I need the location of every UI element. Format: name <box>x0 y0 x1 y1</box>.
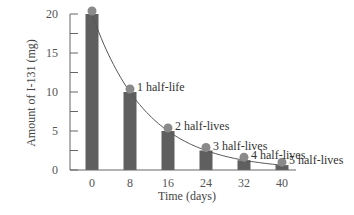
x-tick-label: 0 <box>89 176 95 190</box>
half-life-annotation: 5 half-lives <box>289 153 344 167</box>
x-tick-label: 16 <box>162 176 174 190</box>
half-life-annotation: 1 half-life <box>137 80 185 94</box>
data-point-marker <box>240 153 249 162</box>
bar <box>124 92 137 170</box>
y-tick-label: 20 <box>46 7 58 21</box>
y-tick-label: 10 <box>46 85 58 99</box>
data-point-marker <box>164 124 173 133</box>
bar <box>162 131 175 170</box>
y-tick-label: 0 <box>52 163 58 177</box>
bar <box>200 151 213 171</box>
y-tick-label: 5 <box>52 124 58 138</box>
bar <box>86 14 99 170</box>
x-tick-label: 40 <box>276 176 288 190</box>
half-life-chart: 051015200816243240 1 half-life2 half-liv… <box>0 0 354 215</box>
y-axis-title: Amount of I-131 (mg) <box>24 39 38 147</box>
data-point-marker <box>88 7 97 16</box>
x-tick-label: 24 <box>200 176 212 190</box>
x-tick-label: 32 <box>238 176 250 190</box>
half-life-annotation: 2 half-lives <box>175 119 230 133</box>
x-tick-label: 8 <box>127 176 133 190</box>
x-axis-title: Time (days) <box>158 189 216 203</box>
data-point-marker <box>202 143 211 152</box>
y-tick-label: 15 <box>46 46 58 60</box>
data-point-marker <box>126 85 135 94</box>
